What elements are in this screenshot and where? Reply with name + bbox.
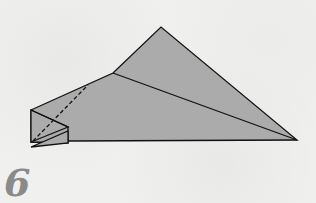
step-number: 6 xyxy=(4,164,30,202)
origami-diagram xyxy=(0,0,316,203)
main-body-shape xyxy=(31,27,297,142)
